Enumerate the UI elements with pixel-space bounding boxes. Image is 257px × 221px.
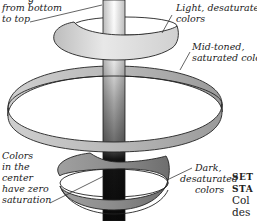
value-axis-shading bbox=[103, 0, 125, 221]
center-label-line1: Colors bbox=[2, 150, 33, 161]
light-label-line2: colors bbox=[176, 13, 205, 24]
light-label-line1: Light, desaturated bbox=[176, 2, 257, 13]
sidebar-body-line3: wo bbox=[232, 218, 247, 221]
sidebar-heading-text1: SET bbox=[232, 172, 254, 182]
axis-label-line2: to top bbox=[2, 13, 30, 24]
center-label-line2: in the bbox=[2, 161, 30, 172]
color-space-diagram: g from bottom to top Light, desaturated … bbox=[0, 0, 257, 221]
mid-label-line1: Mid-toned, bbox=[192, 41, 244, 52]
center-label-line5: saturation bbox=[2, 194, 51, 205]
center-label-line4: have zero bbox=[2, 183, 49, 194]
dark-label-line3: colors bbox=[195, 184, 224, 195]
sidebar-heading-text2: STA bbox=[232, 184, 253, 194]
mid-label-line2: saturated colors bbox=[192, 52, 257, 63]
axis-label-line1: from bottom bbox=[2, 2, 62, 13]
center-label-line3: center bbox=[2, 172, 33, 183]
dark-label-line2: desaturated bbox=[180, 173, 238, 184]
mid-leader-line bbox=[180, 52, 190, 70]
dark-label-line1: Dark, bbox=[195, 162, 222, 173]
